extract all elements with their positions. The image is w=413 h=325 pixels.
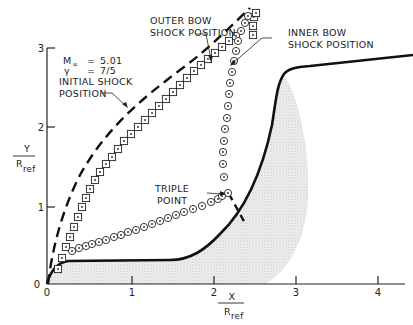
- y-tick-0: 0: [34, 279, 40, 290]
- annotation-outer-bow: OUTER BOW SHOCK POSITION: [150, 15, 236, 38]
- svg-text:POSITION: POSITION: [59, 88, 107, 99]
- x-tick-0: 0: [44, 287, 50, 298]
- svg-text:X: X: [229, 291, 236, 302]
- svg-text:SHOCK POSITION: SHOCK POSITION: [150, 27, 236, 38]
- svg-text:∞: ∞: [72, 60, 79, 69]
- svg-text:OUTER BOW: OUTER BOW: [150, 15, 212, 26]
- shock-plot: 0 1 2 3 4 0 1 2 3 X R ref Y R ref: [0, 0, 413, 325]
- svg-text:ref: ref: [23, 164, 36, 174]
- y-axis-label: Y R ref: [13, 143, 36, 174]
- y-tick-1: 1: [38, 202, 44, 213]
- shaded-flow-region: [47, 75, 308, 284]
- annotation-initial-shock: INITIAL SHOCK POSITION: [59, 76, 133, 99]
- svg-text:INNER BOW: INNER BOW: [288, 27, 347, 38]
- svg-text:=: =: [87, 65, 95, 76]
- x-tick-4: 4: [375, 287, 381, 298]
- svg-text:ref: ref: [231, 311, 244, 321]
- x-tick-2: 2: [211, 287, 217, 298]
- svg-text:POINT: POINT: [157, 195, 187, 206]
- leader-lines: [102, 34, 272, 194]
- x-axis-label: X R ref: [218, 291, 244, 321]
- annotation-triple-point: TRIPLE POINT: [154, 183, 189, 206]
- svg-text:R: R: [224, 306, 231, 317]
- svg-text:R: R: [16, 158, 23, 169]
- y-tick-3: 3: [38, 43, 44, 54]
- svg-text:γ: γ: [64, 65, 70, 76]
- svg-text:TRIPLE: TRIPLE: [154, 183, 189, 194]
- x-tick-3: 3: [293, 287, 299, 298]
- flow-parameters: M ∞ = 5.01 γ = 7/5: [63, 55, 122, 76]
- annotation-inner-bow: INNER BOW SHOCK POSITION: [288, 27, 374, 50]
- x-tick-1: 1: [129, 287, 135, 298]
- svg-text:7/5: 7/5: [100, 65, 116, 76]
- y-tick-2: 2: [38, 122, 44, 133]
- svg-text:SHOCK POSITION: SHOCK POSITION: [288, 39, 374, 50]
- svg-text:INITIAL SHOCK: INITIAL SHOCK: [59, 76, 133, 87]
- svg-text:Y: Y: [23, 143, 30, 154]
